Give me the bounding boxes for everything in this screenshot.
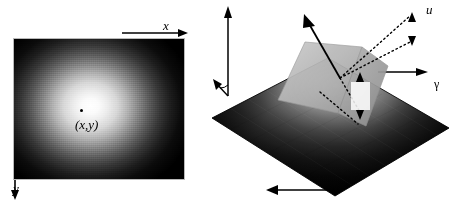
right-u-axis-label: u bbox=[426, 3, 433, 16]
left-x-axis-label: x bbox=[163, 19, 169, 32]
dimension-marker-a bbox=[408, 12, 416, 46]
surface-3d-illustration bbox=[210, 0, 451, 205]
gamma-angle-indicator bbox=[213, 79, 228, 96]
height-field-image bbox=[13, 38, 185, 180]
figure-container: x y (x,y) bbox=[0, 0, 451, 205]
sample-point-label: (x,y) bbox=[75, 118, 98, 131]
sample-point-marker bbox=[80, 109, 83, 112]
u-axis bbox=[224, 6, 232, 96]
right-panel-group: u γ n a b x y bbox=[210, 0, 451, 205]
gamma-angle-label: γ bbox=[434, 78, 439, 90]
raster-noise-overlay bbox=[14, 39, 184, 179]
left-y-axis-label: y bbox=[13, 182, 19, 195]
